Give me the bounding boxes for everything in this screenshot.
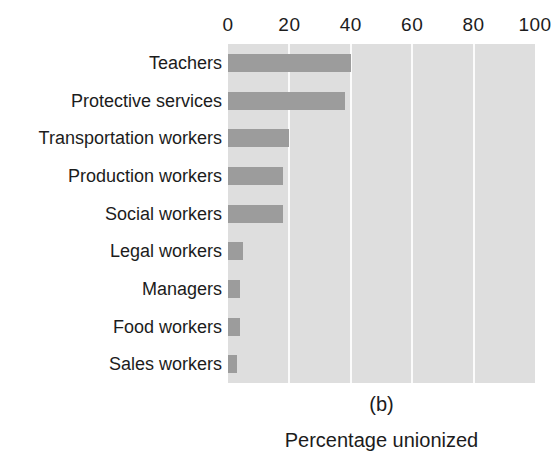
plot-area xyxy=(228,44,535,383)
category-label: Sales workers xyxy=(0,353,222,375)
category-label: Social workers xyxy=(0,203,222,225)
bar xyxy=(228,129,289,147)
x-tick-label: 0 xyxy=(222,12,233,38)
x-tick-label: 20 xyxy=(278,12,300,38)
bar xyxy=(228,167,283,185)
category-label: Teachers xyxy=(0,52,222,74)
category-label: Transportation workers xyxy=(0,127,222,149)
bar xyxy=(228,355,237,373)
x-tick-label: 80 xyxy=(463,12,485,38)
bar xyxy=(228,92,345,110)
category-label: Legal workers xyxy=(0,240,222,262)
bars xyxy=(228,44,535,383)
x-tick-label: 40 xyxy=(340,12,362,38)
panel-caption: (b) xyxy=(228,392,535,416)
bar xyxy=(228,280,240,298)
bar xyxy=(228,242,243,260)
x-axis-title: Percentage unionized xyxy=(228,428,535,452)
y-axis-category-labels: TeachersProtective servicesTransportatio… xyxy=(0,44,222,383)
bar xyxy=(228,318,240,336)
x-tick-label: 60 xyxy=(401,12,423,38)
bar xyxy=(228,205,283,223)
category-label: Production workers xyxy=(0,165,222,187)
bar xyxy=(228,54,351,72)
category-label: Managers xyxy=(0,278,222,300)
category-label: Protective services xyxy=(0,90,222,112)
x-axis-tick-labels: 020406080100 xyxy=(228,12,535,38)
category-label: Food workers xyxy=(0,316,222,338)
x-tick-label: 100 xyxy=(518,12,551,38)
